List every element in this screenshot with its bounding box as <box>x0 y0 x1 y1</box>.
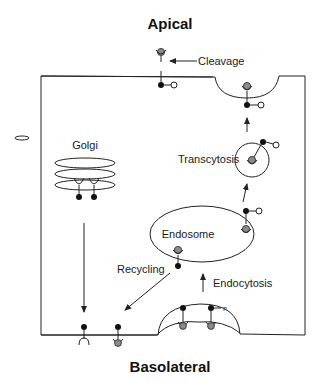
small-oval <box>15 136 29 140</box>
basolateral-label: Basolateral <box>130 358 211 375</box>
phospho-circle-icon <box>171 82 177 88</box>
receptor-apical-pit <box>242 82 264 108</box>
phospho-circle-icon <box>256 208 262 214</box>
phospho-p-label: P <box>223 306 227 312</box>
recycling-arrow <box>125 273 170 310</box>
basolateral-membrane-pit <box>41 76 305 335</box>
apical-label: Apical <box>147 15 192 32</box>
receptor-pit-1 <box>178 305 188 329</box>
endosome-label: Endosome <box>162 228 215 240</box>
transcytosis-label: Transcytosis <box>178 153 240 165</box>
endocytosis-label: Endocytosis <box>213 277 273 289</box>
transcytosis-arrow <box>243 184 247 202</box>
secretory-component-released <box>156 48 166 62</box>
phospho-circle-icon <box>273 142 279 148</box>
golgi-label: Golgi <box>72 139 98 151</box>
cell-membrane <box>41 76 240 335</box>
receptor-endosome-top <box>241 208 262 233</box>
receptor-golgi-2 <box>89 178 99 200</box>
recycling-label: Recycling <box>117 263 165 275</box>
receptor-remnant-apical <box>158 71 177 88</box>
receptor-pit-2: P <box>206 305 227 329</box>
pIgR-transcytosis-diagram: Apical Basolateral Cleavage T <box>0 0 317 382</box>
cleavage-label: Cleavage <box>198 55 244 67</box>
golgi-apparatus <box>55 158 115 190</box>
phospho-circle-icon <box>258 102 264 108</box>
receptor-golgi-1 <box>74 178 84 200</box>
